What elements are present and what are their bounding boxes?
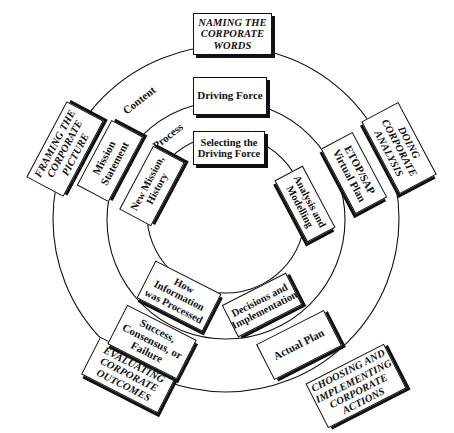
box-naming-middle: Driving Force xyxy=(193,77,267,115)
box-naming-inner: Selecting the Driving Force xyxy=(193,131,265,165)
box-naming-outer: NAMING THE CORPORATE WORDS xyxy=(193,13,272,55)
corporate-cycle-diagram: Content Process NAMING THE CORPORATE WOR… xyxy=(0,0,454,433)
